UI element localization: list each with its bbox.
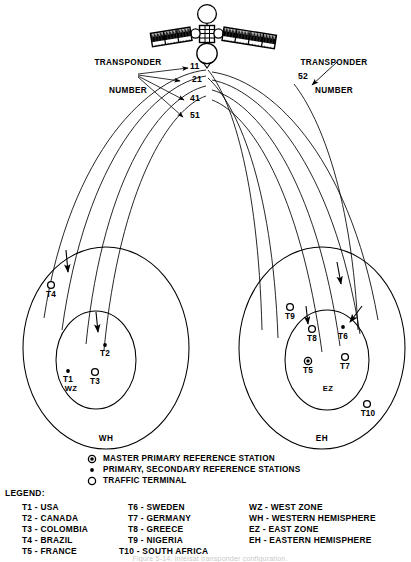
legend-traffic-symbol [88,477,95,484]
terminal-marker-T1 [66,369,70,373]
terminal-marker-T8 [309,326,316,333]
hemisphere-label-EH: EH [308,434,336,443]
legend-master-symbol [88,455,95,462]
terminal-label-T2: T2 [91,349,119,358]
terminal-label-T10: T10 [353,409,383,418]
legend-symbol-glyphs [88,455,95,484]
legend-item-EH: EH - EASTERN HEMISPHERE [249,536,372,545]
legend-title: LEGEND: [5,489,45,498]
legend-primary-symbol [90,468,94,472]
figure-caption: Figure 5-14. Intelsat transponder config… [60,555,360,562]
legend-item-T9: T9 - NIGERIA [128,536,183,545]
zone-label-EZ: EZ [314,385,342,394]
eastern-hemisphere-outline [239,247,405,449]
east-zone-outline [285,310,369,410]
transponder-number-41: 41 [190,94,200,104]
legend-item-T6: T6 - SWEDEN [128,503,185,512]
terminal-label-T3: T3 [81,377,109,386]
figure-root: TRANSPONDER NUMBER TRANSPONDER NUMBER 11… [0,0,411,562]
legend-symbol-label-master: MASTER PRIMARY REFERENCE STATION [103,454,275,463]
transponder-number-21: 21 [192,75,202,85]
left-transponder-label-line2: NUMBER [72,86,184,95]
terminal-label-T8: T8 [298,334,326,343]
legend-item-T3: T3 - COLOMBIA [22,525,88,534]
legend-item-T8: T8 - GREECE [128,525,183,534]
terminal-label-T6: T6 [329,332,357,341]
terminal-marker-T7 [342,354,349,361]
terminal-label-T4: T4 [37,290,65,299]
terminal-label-T9: T9 [276,312,304,321]
legend-item-T2: T2 - CANADA [22,514,78,523]
terminal-marker-T2 [103,343,107,347]
terminal-marker-T3 [92,369,99,376]
west-zone-outline [56,311,136,409]
legend-item-WZ: WZ - WEST ZONE [249,503,323,512]
legend-item-EZ: EZ - EAST ZONE [249,525,319,534]
legend-item-T1: T1 - USA [22,503,59,512]
legend-item-T7: T7 - GERMANY [128,514,191,523]
coverage-outlines [23,247,405,449]
right-transponder-label-line2: NUMBER [278,86,390,95]
right-transponder-number-label: TRANSPONDER NUMBER [278,40,390,114]
terminal-marker-T5 [304,357,311,364]
beam-arcs-right [212,72,378,352]
terminal-marker-T4 [48,282,55,289]
terminal-label-T7: T7 [331,362,359,371]
transponder-number-51: 51 [190,111,200,121]
legend-symbol-label-primary: PRIMARY, SECONDARY REFERENCE STATIONS [103,465,300,474]
legend-symbol-label-traffic: TRAFFIC TERMINAL [103,476,187,485]
terminal-label-T5: T5 [294,366,322,375]
zone-label-WZ: WZ [57,385,85,394]
transponder-number-11: 11 [190,62,199,72]
left-transponder-number-label: TRANSPONDER NUMBER [72,40,184,114]
legend-item-WH: WH - WESTERN HEMISPHERE [249,514,376,523]
transponder-number-52: 52 [298,72,308,82]
terminal-marker-T6 [341,325,345,329]
legend-item-T4: T4 - BRAZIL [22,536,73,545]
western-hemisphere-outline [23,247,189,449]
terminal-marker-T9 [287,304,294,311]
right-transponder-label-line1: TRANSPONDER [278,58,390,67]
hemisphere-label-WH: WH [92,434,120,443]
beam-arrowheads [66,250,362,332]
terminal-marker-T10 [364,401,371,408]
left-transponder-label-line1: TRANSPONDER [72,58,184,67]
terminal-label-T1: T1 [54,375,82,384]
